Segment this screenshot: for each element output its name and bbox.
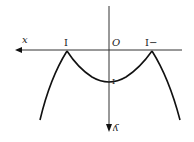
- left-tick-label: I: [64, 37, 68, 48]
- origin-label: O: [112, 37, 120, 48]
- y-axis-arrow-icon: [106, 124, 112, 132]
- graph-canvas: x I O I− I ʎ: [0, 0, 194, 142]
- y-intercept-label: I: [112, 77, 115, 86]
- y-axis-label: ʎ: [112, 122, 119, 133]
- right-tick-label: I−: [145, 37, 157, 48]
- x-axis-label: x: [22, 34, 28, 45]
- curve-right-arm: [152, 51, 180, 120]
- curve-left-arm: [40, 51, 67, 120]
- x-axis-arrow-icon: [15, 47, 22, 53]
